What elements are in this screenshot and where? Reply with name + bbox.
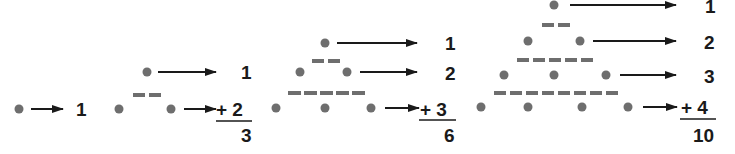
dot bbox=[115, 105, 124, 114]
dash-row bbox=[517, 58, 593, 62]
dot bbox=[550, 1, 559, 10]
total-label: 10 bbox=[693, 125, 714, 146]
dot bbox=[578, 103, 587, 112]
dot bbox=[602, 71, 611, 80]
dash-row bbox=[133, 93, 161, 97]
row-label: + 3 bbox=[420, 99, 447, 120]
dot bbox=[550, 71, 559, 80]
row-label: 1 bbox=[705, 0, 716, 17]
dot bbox=[15, 105, 24, 114]
dot bbox=[321, 104, 330, 113]
dash-row bbox=[494, 91, 618, 95]
row-label: 1 bbox=[76, 99, 87, 120]
dot bbox=[296, 68, 305, 77]
row-label: 3 bbox=[704, 66, 715, 87]
triangular-numbers-diagram: 1 1 + 2 3 1 2 bbox=[0, 0, 735, 154]
dot bbox=[167, 105, 176, 114]
dot bbox=[500, 71, 509, 80]
figure-t4: 1 2 3 bbox=[477, 0, 717, 146]
total-label: 6 bbox=[444, 125, 455, 146]
figure-t3: 1 2 + 3 6 bbox=[272, 33, 457, 146]
dot bbox=[524, 103, 533, 112]
row-label: 1 bbox=[241, 62, 252, 83]
row-label: 1 bbox=[445, 33, 456, 54]
row-label: + 4 bbox=[681, 97, 708, 118]
row-label: + 2 bbox=[216, 99, 243, 120]
figure-t2: 1 + 2 3 bbox=[115, 62, 253, 146]
dot bbox=[624, 103, 633, 112]
dash-row bbox=[312, 59, 340, 63]
figure-t1: 1 bbox=[15, 99, 88, 120]
dot bbox=[367, 104, 376, 113]
dash-row bbox=[542, 23, 570, 27]
row-label: 2 bbox=[704, 32, 715, 53]
dot bbox=[343, 68, 352, 77]
dot bbox=[477, 103, 486, 112]
dot bbox=[576, 37, 585, 46]
total-label: 3 bbox=[241, 125, 252, 146]
dot bbox=[272, 104, 281, 113]
dot bbox=[321, 39, 330, 48]
dot bbox=[524, 37, 533, 46]
row-label: 2 bbox=[445, 63, 456, 84]
dot bbox=[143, 68, 152, 77]
dash-row bbox=[288, 91, 365, 95]
